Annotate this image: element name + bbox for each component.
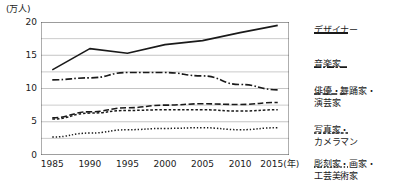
legend: デザイナー音楽家俳優・舞踊家・ 演芸家写真家・ カメラマン彫刻家・画家・ 工芸美…	[296, 10, 411, 182]
legend-label: 写真家・ カメラマン	[314, 125, 358, 148]
y-tick-label: 0	[31, 151, 37, 160]
legend-line-sample	[314, 81, 348, 85]
legend-label: 俳優・舞踊家・ 演芸家	[314, 86, 376, 109]
y-tick-label: 15	[26, 51, 37, 60]
legend-line-sample	[314, 20, 348, 24]
legend-label: デザイナー	[314, 25, 358, 37]
legend-line-sample	[314, 154, 348, 158]
legend-label: 音楽家	[314, 59, 340, 71]
series-line-4	[52, 128, 277, 137]
plot-area	[41, 22, 289, 155]
legend-line-sample	[314, 120, 348, 124]
series-line-0	[52, 25, 277, 70]
y-axis-unit-label: (万人)	[6, 4, 30, 15]
y-tick-label: 10	[26, 84, 37, 93]
series-line-1	[52, 73, 277, 90]
legend-line-sample	[314, 54, 348, 58]
y-tick-label: 5	[31, 117, 37, 126]
plot-svg	[41, 22, 289, 155]
legend-label: 彫刻家・画家・ 工芸美術家	[314, 159, 376, 182]
y-tick-label: 20	[26, 18, 37, 27]
chart-figure: (万人) 05101520 19851990199520002005201020…	[0, 0, 411, 187]
